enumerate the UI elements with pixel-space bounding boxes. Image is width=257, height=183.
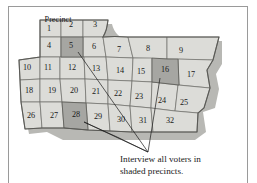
precinct-label-19: 19 <box>48 86 56 95</box>
precinct-label-11: 11 <box>44 63 52 72</box>
precinct-label-9: 9 <box>179 46 183 55</box>
precinct-label-7: 7 <box>117 45 121 54</box>
precinct-label-8: 8 <box>146 44 150 53</box>
precinct-label-13: 13 <box>92 64 100 73</box>
precinct-label-4: 4 <box>47 41 51 50</box>
precinct-label-12: 12 <box>68 63 76 72</box>
precinct-label-5: 5 <box>69 41 73 50</box>
precinct-map-figure: Precinct 1 2 3 4 5 6 7 8 9 10 11 12 13 1… <box>0 0 257 183</box>
precinct-label-29: 29 <box>94 112 102 121</box>
cell-9 <box>167 37 219 60</box>
precinct-label-20: 20 <box>70 86 78 95</box>
caption-line-1: Interview all voters in <box>120 154 250 166</box>
precinct-label-23: 23 <box>135 92 143 101</box>
precinct-label-2: 2 <box>69 20 73 29</box>
precinct-label-1: 1 <box>47 24 51 33</box>
figure-caption: Interview all voters in shaded precincts… <box>120 154 250 177</box>
precinct-label-25: 25 <box>180 98 188 107</box>
precinct-label-17: 17 <box>187 70 195 79</box>
precinct-label-30: 30 <box>117 115 125 124</box>
precinct-label-6: 6 <box>92 42 96 51</box>
precinct-label-18: 18 <box>25 86 33 95</box>
caption-line-2: shaded precincts. <box>120 166 250 178</box>
precinct-label-32: 32 <box>166 116 174 125</box>
precinct-label-28: 28 <box>72 110 80 119</box>
precinct-label-26: 26 <box>27 111 35 120</box>
precinct-label-27: 27 <box>50 111 58 120</box>
precinct-label-31: 31 <box>139 116 147 125</box>
precinct-label-21: 21 <box>92 87 100 96</box>
precinct-label-10: 10 <box>23 63 31 72</box>
precinct-label-14: 14 <box>116 66 124 75</box>
precinct-label-24: 24 <box>158 96 166 105</box>
precinct-label-15: 15 <box>137 67 145 76</box>
precinct-label-16: 16 <box>161 65 169 74</box>
precinct-label-3: 3 <box>93 20 97 29</box>
precinct-label-22: 22 <box>114 89 122 98</box>
